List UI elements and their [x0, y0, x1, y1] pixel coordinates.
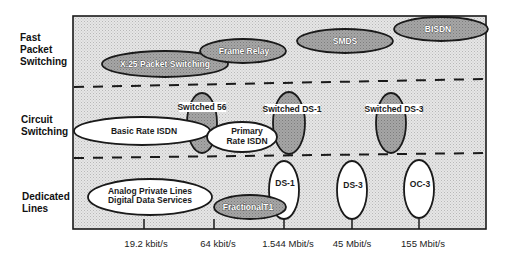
svg-text:Digital Data Services: Digital Data Services	[108, 195, 192, 205]
svg-text:Switched DS-1: Switched DS-1	[262, 104, 321, 114]
axis-label-19-2-kbit: 19.2 kbit/s	[124, 238, 167, 249]
svg-text:Switched 56: Switched 56	[177, 102, 226, 112]
svg-text:BISDN: BISDN	[425, 24, 451, 34]
label-switched-56: Switched 56	[177, 102, 226, 112]
ellipse-fractional-t1: FractionalT1	[214, 195, 286, 219]
ellipse-analog-digital: Analog Private Lines Digital Data Servic…	[88, 179, 212, 215]
axis-label-64-kbit: 64 kbit/s	[200, 238, 235, 249]
ellipse-switched-ds3	[376, 93, 406, 153]
ellipse-smds: SMDS	[297, 29, 393, 53]
ellipse-switched-ds1	[273, 92, 305, 154]
ellipse-frame-relay: Frame Relay	[200, 39, 286, 63]
svg-text:DS-1: DS-1	[275, 178, 295, 188]
label-switched-ds1: Switched DS-1	[262, 104, 321, 114]
svg-text:Switched DS-3: Switched DS-3	[364, 104, 423, 114]
ellipse-oc3: OC-3	[404, 160, 434, 218]
svg-text:Basic Rate ISDN: Basic Rate ISDN	[111, 126, 177, 136]
svg-text:SMDS: SMDS	[333, 36, 358, 46]
axis-label-1-544-mbit: 1.544 Mbit/s	[262, 238, 314, 249]
svg-text:X.25 Packet Switching: X.25 Packet Switching	[120, 59, 210, 69]
ellipse-primary-rate-isdn: Primary Rate ISDN	[207, 122, 277, 152]
svg-text:FractionalT1: FractionalT1	[223, 202, 274, 212]
ellipse-basic-rate-isdn: Basic Rate ISDN	[74, 117, 210, 145]
label-switched-ds3: Switched DS-3	[364, 104, 423, 114]
svg-text:Frame Relay: Frame Relay	[219, 46, 270, 56]
axis-label-155-mbit: 155 Mbit/s	[401, 238, 445, 249]
service-rate-diagram: X.25 Packet Switching Frame Relay SMDS B…	[0, 0, 508, 261]
svg-text:OC-3: OC-3	[410, 179, 431, 189]
svg-text:DS-3: DS-3	[343, 180, 363, 190]
svg-text:Rate ISDN: Rate ISDN	[226, 136, 267, 146]
axis-label-45-mbit: 45 Mbit/s	[333, 238, 372, 249]
ellipse-bisdn: BISDN	[394, 17, 488, 41]
ellipse-ds3: DS-3	[337, 161, 367, 219]
svg-text:Primary: Primary	[231, 126, 263, 136]
